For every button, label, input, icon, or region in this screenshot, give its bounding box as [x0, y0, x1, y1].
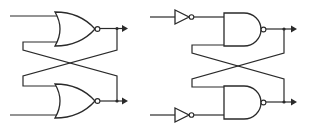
- arrow-right-icon: [122, 98, 128, 105]
- junction-dot: [282, 100, 285, 103]
- arrow-right-icon: [291, 26, 297, 33]
- inversion-bubble: [95, 99, 100, 104]
- inversion-bubble: [95, 27, 100, 32]
- inversion-bubble: [189, 113, 194, 118]
- inversion-bubble: [261, 27, 266, 32]
- inversion-bubble: [261, 100, 266, 105]
- logic-diagram: [0, 0, 312, 132]
- not-gate-bottom: [175, 108, 189, 122]
- junction-dot: [115, 27, 118, 30]
- not-gate-top: [175, 10, 189, 24]
- nor-gate-top: [55, 12, 95, 46]
- nand-gate-top: [224, 13, 261, 46]
- nand-sr-latch: [150, 10, 297, 122]
- nand-gate-bottom: [224, 86, 261, 119]
- junction-dot: [282, 27, 285, 30]
- junction-dot: [115, 99, 118, 102]
- arrow-right-icon: [122, 25, 128, 32]
- nor-sr-latch: [10, 12, 128, 118]
- inversion-bubble: [189, 15, 194, 20]
- arrow-right-icon: [291, 99, 297, 106]
- nor-gate-bottom: [55, 84, 95, 118]
